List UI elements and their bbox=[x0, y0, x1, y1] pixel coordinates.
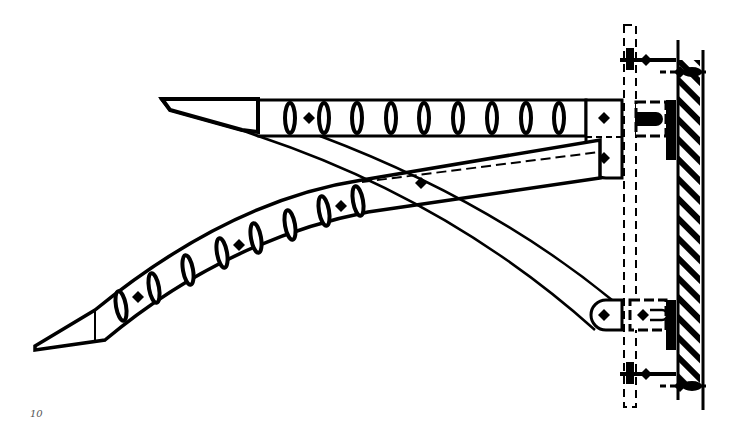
lower-pivot bbox=[591, 300, 667, 330]
lower-arm bbox=[35, 140, 600, 350]
dashed-channel bbox=[624, 25, 636, 407]
page-number: 10 bbox=[30, 408, 43, 419]
wall bbox=[678, 40, 703, 410]
bracket-drawing bbox=[0, 0, 745, 436]
upper-arm bbox=[162, 99, 586, 136]
